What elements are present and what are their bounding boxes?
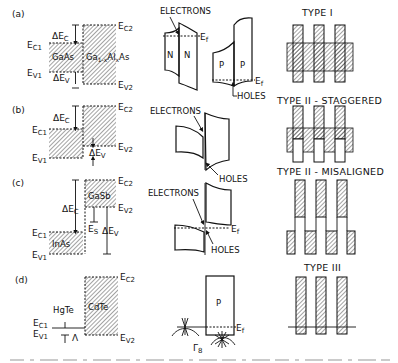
panel-b-label: (b)	[12, 105, 25, 115]
b-left-band-gap	[49, 129, 83, 158]
label-ev2-d: EV2	[120, 333, 135, 345]
p-right-band	[234, 18, 252, 86]
type-i-well-1	[293, 25, 303, 82]
type-ii-misaligned-bottom-2	[305, 231, 316, 254]
label-ev1-c: EV1	[32, 250, 47, 262]
material-inas: InAs	[52, 239, 71, 249]
label-delta-ec-c: ΔEC	[62, 204, 79, 216]
label-type-ii-staggered: TYPE II - STAGGERED	[276, 95, 382, 106]
type-ii-misaligned-top-2	[316, 180, 326, 217]
type-ii-staggered-well-1	[293, 106, 303, 139]
label-delta-ec: ΔEC	[52, 31, 69, 43]
label-ef-a-p: Ef	[255, 76, 264, 88]
label-electrons-b: ELECTRONS	[150, 106, 201, 116]
type-ii-misaligned-bottom-4	[347, 231, 355, 254]
material-gasb: GaSb	[88, 191, 111, 201]
type-ii-misaligned-top-3	[337, 180, 347, 217]
c-right-band	[206, 183, 231, 225]
type-i-well-3	[335, 25, 345, 82]
label-ev2-b: EV2	[118, 142, 133, 154]
label-ef-d: Ef	[236, 323, 245, 335]
label-ec2-c: EC2	[118, 176, 133, 188]
type-ii-misaligned-bottom-1	[287, 231, 295, 254]
label-p-d: P	[216, 298, 221, 308]
material-gaalas: Ga1-xAlxAs	[86, 52, 130, 63]
b-right-band-gap	[83, 106, 116, 146]
label-delta-ec-b: ΔEC	[53, 113, 70, 125]
type-ii-misaligned-top-1	[295, 180, 305, 217]
label-ec1: EC1	[27, 40, 42, 52]
label-ec1-b: EC1	[32, 125, 47, 137]
label-ef-a-n: Ef	[200, 32, 209, 44]
hgte-dispersion-right	[215, 331, 229, 348]
label-ef-c: Ef	[231, 224, 240, 236]
label-n-left: N	[167, 50, 173, 60]
label-delta-ev: ΔEV	[53, 73, 70, 85]
label-ev2-c: EV2	[118, 203, 133, 215]
label-lambda: Λ	[72, 333, 79, 343]
panel-d: (d) CdTe HgTe EC1 EV1 EC2 EV2 Λ P Ef	[15, 262, 356, 355]
material-cdte: CdTe	[88, 302, 108, 312]
b-right-band	[205, 113, 229, 170]
type-ii-misaligned-bottom-3	[326, 231, 337, 254]
panel-a: (a) GaAs Ga1-xAlxAs EC1 EV1 EC2 EV2 ΔEC …	[12, 6, 353, 101]
panel-a-label: (a)	[12, 9, 25, 19]
c-left-band	[175, 225, 204, 252]
label-delta-ev-c: ΔEV	[102, 226, 119, 238]
material-gaas: GaAs	[52, 52, 75, 62]
label-p-left: P	[219, 60, 224, 70]
label-type-i: TYPE I	[301, 7, 333, 18]
label-ev1-d: EV1	[33, 329, 48, 341]
label-ev1: EV1	[27, 68, 42, 80]
label-p-right: P	[240, 60, 245, 70]
panel-c-label: (c)	[12, 178, 24, 188]
panel-c: (c) InAs GaSb EC1 EV1 EC2 EV2 ΔEC ES ΔEV…	[12, 166, 384, 262]
label-holes-b: HOLES	[219, 174, 248, 184]
type-ii-staggered-well-2	[314, 106, 324, 139]
heterojunction-band-alignment-figure: (a) GaAs Ga1-xAlxAs EC1 EV1 EC2 EV2 ΔEC …	[0, 0, 398, 363]
label-ec1-c: EC1	[32, 228, 47, 240]
label-holes-a: HOLES	[237, 91, 266, 101]
label-type-iii: TYPE III	[303, 262, 341, 273]
type-iii-barrier-2	[316, 277, 326, 334]
label-ec2-d: EC2	[120, 272, 135, 284]
type-iii-barrier-3	[337, 277, 347, 334]
label-n-right: N	[184, 50, 190, 60]
label-ev2: EV2	[118, 80, 133, 92]
type-ii-staggered-well-3	[335, 106, 345, 139]
label-ec2-b: EC2	[118, 102, 133, 114]
label-es: ES	[88, 224, 99, 236]
type-i-well-2	[314, 25, 324, 82]
label-ev1-b: EV1	[32, 153, 47, 165]
label-delta-ev-b: ΔEV	[89, 148, 106, 160]
b-left-band	[176, 126, 203, 158]
label-ec2: EC2	[118, 21, 133, 33]
panel-d-label: (d)	[15, 275, 28, 285]
label-electrons-a: ELECTRONS	[160, 6, 211, 16]
label-gamma8: Γ8	[193, 343, 202, 355]
label-holes-c: HOLES	[211, 245, 240, 255]
type-iii-barrier-1	[296, 277, 306, 334]
label-type-ii-misaligned: TYPE II - MISALIGNED	[276, 166, 384, 177]
label-electrons-c: ELECTRONS	[148, 188, 199, 198]
material-hgte: HgTe	[53, 305, 74, 315]
